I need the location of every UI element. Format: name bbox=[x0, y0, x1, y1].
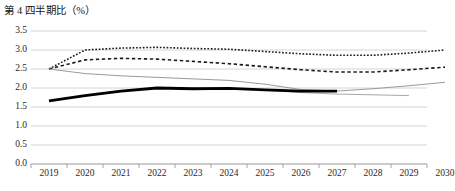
x-tick-label: 2021 bbox=[112, 168, 131, 179]
x-tick-label: 2022 bbox=[148, 168, 167, 179]
x-tick-label: 2026 bbox=[292, 168, 311, 179]
x-tick-label: 2025 bbox=[256, 168, 275, 179]
series-thick-black-solid bbox=[49, 88, 337, 101]
x-tick-label: 2019 bbox=[40, 168, 59, 179]
x-tick-label: 2028 bbox=[364, 168, 383, 179]
gridlines bbox=[31, 31, 427, 164]
x-tick-label: 2020 bbox=[76, 168, 95, 179]
x-tick-label: 2024 bbox=[220, 168, 239, 179]
x-tick-label: 2027 bbox=[328, 168, 347, 179]
x-tick-label: 2029 bbox=[400, 168, 419, 179]
series-dashed-middle bbox=[49, 58, 445, 72]
x-tick-label: 2030 bbox=[436, 168, 455, 179]
x-axis-labels: 2019202020212022202320242025202620272028… bbox=[0, 168, 434, 188]
series-lines bbox=[49, 47, 445, 101]
x-tick-label: 2023 bbox=[184, 168, 203, 179]
